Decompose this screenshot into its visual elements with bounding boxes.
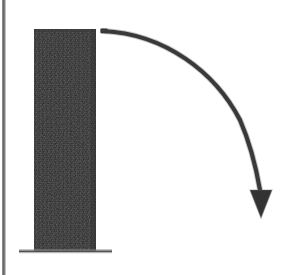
diagram-svg bbox=[0, 0, 284, 275]
bar-top-highlight bbox=[34, 29, 96, 32]
bar-column bbox=[34, 29, 96, 251]
bar-noise bbox=[34, 29, 96, 251]
ground-line bbox=[19, 250, 112, 254]
figure-canvas: Toppling bar diagram A tall dark vertica… bbox=[0, 0, 284, 275]
bar-inner-highlight bbox=[91, 29, 96, 251]
arrow-start-cap bbox=[101, 29, 108, 34]
left-border-rule bbox=[2, 0, 5, 275]
